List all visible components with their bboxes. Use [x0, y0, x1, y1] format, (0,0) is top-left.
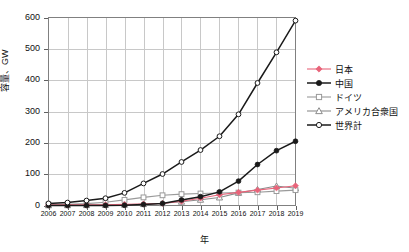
legend-label: 日本: [332, 63, 353, 76]
chart-legend: 日本中国ドイツアメリカ合衆国世界計: [306, 62, 409, 132]
data-point: [236, 112, 241, 117]
legend-label: 中国: [332, 77, 353, 90]
legend-item-1[interactable]: 日本: [306, 62, 409, 76]
data-point: [160, 193, 165, 198]
data-point: [141, 181, 146, 186]
data-point: [122, 203, 127, 208]
legend-label: ドイツ: [332, 91, 362, 104]
data-point: [179, 192, 184, 197]
data-point: [293, 139, 298, 144]
legend-item-2[interactable]: 中国: [306, 76, 409, 90]
data-point: [84, 203, 89, 208]
data-point: [179, 160, 184, 165]
data-point: [141, 202, 146, 207]
legend-marker-icon: [306, 62, 332, 76]
data-point: [65, 200, 70, 205]
data-point: [198, 194, 203, 199]
legend-item-4[interactable]: アメリカ合衆国: [306, 104, 409, 118]
legend-item-3[interactable]: ドイツ: [306, 90, 409, 104]
data-point: [103, 203, 108, 208]
legend-marker-icon: [306, 104, 332, 118]
legend-item-5[interactable]: 世界計: [306, 118, 409, 132]
data-point: [141, 195, 146, 200]
data-point: [255, 81, 260, 86]
data-point: [46, 201, 51, 206]
series-2: [46, 139, 298, 208]
data-point: [160, 172, 165, 177]
data-point: [293, 18, 298, 23]
data-point: [217, 189, 222, 194]
series-line: [49, 141, 296, 205]
data-point: [103, 196, 108, 201]
data-point: [274, 50, 279, 55]
data-point: [84, 198, 89, 203]
data-point: [255, 162, 260, 167]
data-point: [160, 201, 165, 206]
data-point: [236, 179, 241, 184]
chart-figure: 0100200300400500600 20062007200820092010…: [0, 0, 409, 252]
data-point: [198, 148, 203, 153]
legend-label: 世界計: [332, 119, 362, 132]
series-line: [49, 21, 296, 204]
data-point: [179, 198, 184, 203]
series-5: [46, 18, 298, 206]
data-point: [274, 148, 279, 153]
legend-marker-icon: [306, 90, 332, 104]
data-point: [122, 190, 127, 195]
legend-marker-icon: [306, 76, 332, 90]
legend-marker-icon: [306, 118, 332, 132]
legend-label: アメリカ合衆国: [332, 105, 398, 118]
data-point: [217, 134, 222, 139]
